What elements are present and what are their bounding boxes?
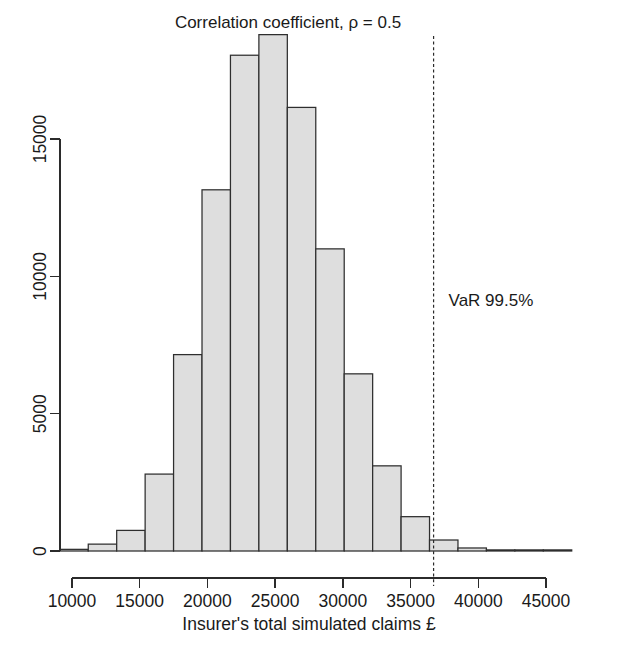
y-tick-label: 0 xyxy=(30,546,50,556)
histogram-bar xyxy=(259,35,287,551)
histogram-figure: Correlation coefficient, ρ = 0.5 VaR 99.… xyxy=(0,0,632,665)
y-tick-labels: 050001000015000 xyxy=(30,114,50,555)
y-tick-label: 5000 xyxy=(30,394,50,433)
y-tick-label: 10000 xyxy=(30,252,50,301)
histogram-bar xyxy=(543,550,571,551)
histogram-bar xyxy=(230,55,258,551)
histogram-bar xyxy=(316,249,344,551)
histogram-bar xyxy=(88,544,116,551)
histogram-bar xyxy=(287,107,315,551)
histogram-bar xyxy=(515,550,543,551)
histogram-bar xyxy=(458,548,486,551)
x-tick-label: 20000 xyxy=(183,591,232,611)
x-tick-label: 15000 xyxy=(115,591,164,611)
histogram-bar xyxy=(344,374,372,551)
histogram-bar xyxy=(373,466,401,551)
histogram-svg: Correlation coefficient, ρ = 0.5 VaR 99.… xyxy=(0,0,632,665)
histogram-bar xyxy=(117,530,145,551)
y-tick-label: 15000 xyxy=(30,114,50,163)
histogram-bar xyxy=(60,549,88,551)
histogram-bar xyxy=(174,355,202,551)
x-tick-labels: 1000015000200002500030000350004000045000 xyxy=(48,591,571,611)
histogram-bar xyxy=(401,517,429,551)
chart-title: Correlation coefficient, ρ = 0.5 xyxy=(175,13,401,32)
x-tick-label: 45000 xyxy=(522,591,571,611)
x-tick-label: 30000 xyxy=(319,591,368,611)
histogram-bar xyxy=(202,190,230,551)
histogram-bar xyxy=(486,550,514,551)
var-annotation-label: VaR 99.5% xyxy=(449,291,534,310)
histogram-bar xyxy=(145,474,173,551)
x-axis-title: Insurer's total simulated claims £ xyxy=(182,614,436,634)
x-tick-label: 25000 xyxy=(251,591,300,611)
y-axis xyxy=(50,139,60,551)
x-tick-label: 40000 xyxy=(454,591,503,611)
x-tick-label: 35000 xyxy=(386,591,435,611)
x-axis xyxy=(72,578,546,588)
x-tick-label: 10000 xyxy=(48,591,97,611)
